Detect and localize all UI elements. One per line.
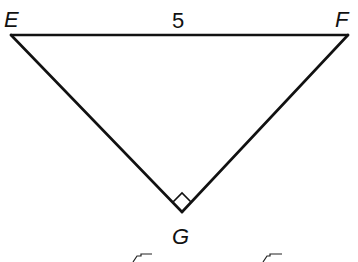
vertex-label-g: G: [172, 224, 189, 249]
right-angle-marker: [173, 193, 191, 202]
side-fg: [182, 35, 348, 212]
vertex-label-e: E: [4, 7, 19, 32]
triangle-diagram: E F G 5: [0, 0, 358, 262]
radical-sign-partial-1: [133, 254, 152, 262]
radical-sign-partial-2: [263, 254, 282, 262]
side-eg: [11, 35, 182, 212]
side-length-ef: 5: [172, 8, 184, 33]
vertex-label-f: F: [335, 7, 350, 32]
